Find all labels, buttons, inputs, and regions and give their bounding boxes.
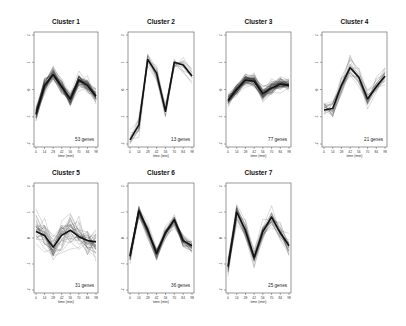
- panel-cluster-3: Cluster 3-2-1012014284256708498time (min…: [219, 18, 291, 158]
- x-axis-label: time (min): [347, 154, 363, 158]
- y-tick-label: -2: [121, 288, 125, 291]
- x-tick-label: 70: [77, 296, 81, 300]
- panel-title: Cluster 1: [52, 18, 80, 25]
- y-tick-label: -1: [27, 262, 31, 265]
- x-tick-label: 70: [77, 150, 81, 154]
- x-tick-label: 0: [129, 150, 131, 154]
- x-tick-label: 84: [375, 150, 379, 154]
- gene-trace: [130, 59, 192, 143]
- panel-title: Cluster 3: [245, 18, 273, 25]
- y-tick-label: 1: [27, 211, 31, 213]
- x-tick-label: 14: [235, 150, 239, 154]
- y-tick-label: 1: [219, 211, 223, 213]
- x-tick-label: 98: [383, 150, 387, 154]
- y-tick-label: -2: [315, 142, 319, 145]
- x-tick-label: 14: [43, 150, 47, 154]
- panel-cluster-7: Cluster 7-2-1012014284256708498time (min…: [219, 169, 291, 304]
- y-tick-label: 0: [219, 237, 223, 239]
- x-tick-label: 98: [190, 150, 194, 154]
- y-tick-label: -2: [219, 142, 223, 145]
- panel-title: Cluster 2: [147, 18, 175, 25]
- y-tick-label: 2: [121, 34, 125, 36]
- x-tick-label: 0: [227, 150, 229, 154]
- panel-cluster-1: Cluster 1-2-1012014284256708498time (min…: [27, 18, 98, 158]
- gene-count-label: 36 genes: [171, 283, 191, 288]
- x-tick-label: 84: [86, 150, 90, 154]
- x-tick-label: 84: [181, 150, 185, 154]
- y-tick-label: -1: [121, 262, 125, 265]
- x-tick-label: 56: [164, 296, 168, 300]
- y-tick-label: 2: [27, 34, 31, 36]
- cluster-figure: Cluster 1-2-1012014284256708498time (min…: [0, 0, 406, 326]
- centroid-line: [130, 211, 192, 257]
- y-tick-label: 2: [219, 185, 223, 187]
- x-tick-label: 56: [69, 150, 73, 154]
- x-tick-label: 70: [270, 296, 274, 300]
- x-tick-label: 0: [129, 296, 131, 300]
- y-tick-label: -2: [121, 142, 125, 145]
- x-tick-label: 28: [244, 296, 248, 300]
- x-tick-label: 14: [137, 150, 141, 154]
- x-tick-label: 0: [227, 296, 229, 300]
- x-tick-label: 28: [244, 150, 248, 154]
- x-tick-label: 28: [146, 296, 150, 300]
- y-tick-label: -1: [219, 262, 223, 265]
- x-tick-label: 28: [51, 150, 55, 154]
- x-tick-label: 84: [86, 296, 90, 300]
- y-tick-label: 1: [121, 61, 125, 63]
- y-tick-label: 0: [121, 88, 125, 90]
- x-tick-label: 42: [252, 296, 256, 300]
- x-tick-label: 14: [43, 296, 47, 300]
- gene-trace: [130, 57, 192, 144]
- panel-cluster-5: Cluster 5-2-1012014284256708498time (min…: [27, 169, 98, 304]
- x-tick-label: 14: [235, 296, 239, 300]
- x-axis-label: time (min): [58, 300, 74, 304]
- x-tick-label: 98: [94, 296, 98, 300]
- x-tick-label: 56: [164, 150, 168, 154]
- x-tick-label: 42: [60, 150, 64, 154]
- x-tick-label: 0: [35, 150, 37, 154]
- y-tick-label: -2: [27, 142, 31, 145]
- y-tick-label: 2: [121, 185, 125, 187]
- x-tick-label: 0: [35, 296, 37, 300]
- y-tick-label: -1: [27, 115, 31, 118]
- x-tick-label: 70: [173, 296, 177, 300]
- x-tick-label: 42: [60, 296, 64, 300]
- x-tick-label: 0: [323, 150, 325, 154]
- panel-cluster-6: Cluster 6-2-1012014284256708498time (min…: [121, 169, 194, 304]
- x-tick-label: 42: [348, 150, 352, 154]
- y-tick-label: -1: [315, 115, 319, 118]
- x-axis-label: time (min): [153, 300, 169, 304]
- gene-count-label: 25 genes: [268, 283, 288, 288]
- x-axis-label: time (min): [153, 154, 169, 158]
- y-tick-label: -2: [219, 288, 223, 291]
- y-tick-label: 0: [27, 88, 31, 90]
- x-tick-label: 42: [252, 150, 256, 154]
- x-tick-label: 14: [331, 150, 335, 154]
- y-tick-label: 0: [27, 237, 31, 239]
- y-tick-label: -2: [27, 288, 31, 291]
- x-tick-label: 70: [173, 150, 177, 154]
- gene-count-label: 53 genes: [75, 137, 95, 142]
- x-axis-label: time (min): [251, 154, 267, 158]
- gene-count-label: 31 genes: [75, 283, 95, 288]
- x-tick-label: 70: [366, 150, 370, 154]
- x-tick-label: 56: [69, 296, 73, 300]
- y-tick-label: 2: [219, 34, 223, 36]
- gene-trace: [130, 61, 192, 144]
- panel-cluster-2: Cluster 2-2-1012014284256708498time (min…: [121, 18, 194, 158]
- y-tick-label: 1: [27, 61, 31, 63]
- y-tick-label: -1: [121, 115, 125, 118]
- x-axis-label: time (min): [58, 154, 74, 158]
- x-tick-label: 84: [279, 296, 283, 300]
- y-tick-label: 0: [315, 88, 319, 90]
- x-tick-label: 84: [181, 296, 185, 300]
- y-tick-label: 2: [315, 34, 319, 36]
- gene-trace: [228, 214, 289, 261]
- x-tick-label: 56: [261, 150, 265, 154]
- panel-title: Cluster 6: [147, 169, 175, 176]
- x-tick-label: 28: [146, 150, 150, 154]
- x-tick-label: 56: [357, 150, 361, 154]
- panel-title: Cluster 4: [341, 18, 369, 25]
- y-tick-label: 0: [219, 88, 223, 90]
